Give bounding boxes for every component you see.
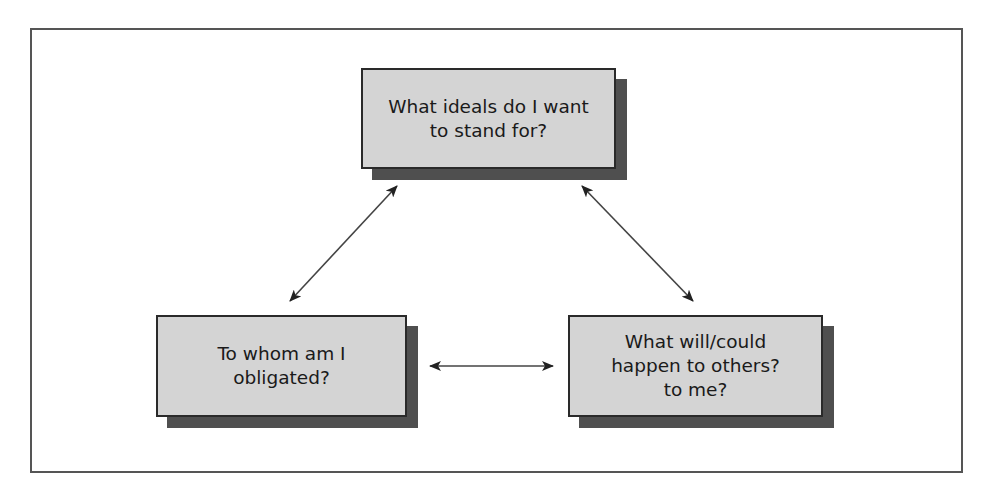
node-ideals: What ideals do I want to stand for?: [361, 68, 616, 169]
node-ideals-label: What ideals do I want to stand for?: [388, 95, 588, 143]
node-obligations-label: To whom am I obligated?: [217, 342, 345, 390]
node-consequences: What will/could happen to others? to me?: [568, 315, 823, 417]
node-obligations: To whom am I obligated?: [156, 315, 407, 417]
node-consequences-label: What will/could happen to others? to me?: [611, 330, 780, 402]
